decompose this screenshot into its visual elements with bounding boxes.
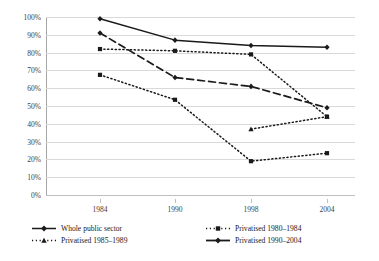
x-axis-tick-label: 1990: [168, 205, 183, 214]
y-axis-tick-label: 60%: [27, 84, 41, 93]
series-line: [100, 75, 327, 161]
y-axis-tick-label: 20%: [27, 155, 41, 164]
y-axis-tick-label: 10%: [27, 173, 41, 182]
legend-key: [31, 236, 57, 245]
y-axis-tick-label: 30%: [27, 137, 41, 146]
series-line: [251, 117, 327, 129]
y-axis-tick-labels: 0%10%20%30%40%50%60%70%80%90%100%: [0, 17, 43, 195]
series-layer: [46, 17, 355, 195]
data-point-marker: [173, 98, 177, 102]
x-axis-tick-mark: [100, 199, 101, 203]
series-line: [100, 19, 327, 47]
legend-key-icon: [205, 224, 231, 233]
y-axis-tick-label: 70%: [27, 66, 41, 75]
y-axis-tick-label: 100%: [24, 13, 42, 22]
x-axis-tick-labels: 1984199019982004: [46, 199, 355, 215]
legend-row-2: Privatised 1985–1989Privatised 1990–2004: [0, 234, 379, 247]
legend-key-icon: [205, 236, 231, 245]
series-line: [100, 33, 327, 108]
x-axis-tick-mark: [175, 199, 176, 203]
legend-entry[interactable]: Privatised 1990–2004: [181, 234, 370, 247]
data-point-marker: [173, 49, 177, 53]
x-axis-tick-label: 2004: [320, 205, 335, 214]
data-point-marker: [98, 47, 102, 51]
x-axis-tick-label: 1998: [244, 205, 259, 214]
legend-key: [205, 224, 231, 233]
x-axis-tick-label: 1984: [93, 205, 108, 214]
gridline: [46, 195, 355, 196]
data-point-marker: [172, 75, 177, 81]
chart-legend: Whole public sectorPrivatised 1980–1984 …: [0, 222, 379, 256]
data-point-marker: [324, 105, 329, 111]
legend-label: Privatised 1985–1989: [61, 236, 127, 245]
legend-label: Whole public sector: [61, 224, 122, 233]
plot-area: [46, 17, 355, 195]
chart-container: 0%10%20%30%40%50%60%70%80%90%100% 198419…: [0, 0, 379, 261]
legend-label: Privatised 1980–1984: [235, 224, 301, 233]
legend-key-icon: [31, 236, 57, 245]
data-point-marker: [98, 73, 102, 77]
y-axis-tick-label: 50%: [27, 102, 41, 111]
data-point-marker: [172, 37, 177, 43]
x-axis-tick-mark: [251, 199, 252, 203]
data-point-marker: [248, 84, 253, 90]
y-axis-tick-label: 40%: [27, 119, 41, 128]
legend-label: Privatised 1990–2004: [235, 236, 301, 245]
legend-key: [205, 236, 231, 245]
y-axis-tick-label: 90%: [27, 30, 41, 39]
legend-key: [31, 224, 57, 233]
y-axis-tick-label: 0%: [31, 191, 41, 200]
legend-key-icon: [31, 224, 57, 233]
x-axis-tick-mark: [327, 199, 328, 203]
data-point-marker: [248, 43, 253, 49]
y-axis-tick-label: 80%: [27, 48, 41, 57]
data-point-marker: [249, 52, 253, 56]
data-point-marker: [325, 151, 329, 155]
legend-entry[interactable]: Privatised 1985–1989: [9, 234, 181, 247]
data-point-marker: [324, 44, 329, 50]
data-point-marker: [249, 159, 253, 163]
data-point-marker: [97, 16, 102, 22]
